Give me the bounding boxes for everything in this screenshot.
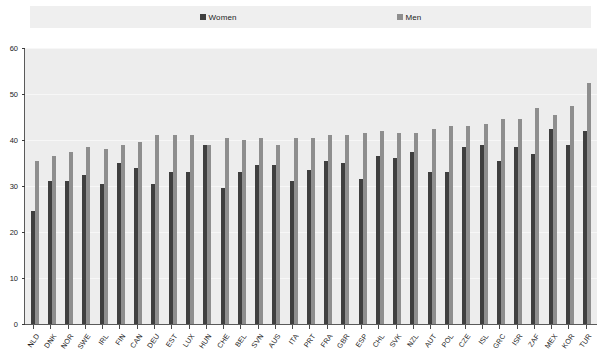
x-axis-tick xyxy=(42,325,59,329)
y-axis-tick-label: 30 xyxy=(10,182,18,191)
x-axis-tick-mark xyxy=(517,325,518,329)
bar-men[interactable] xyxy=(535,108,539,324)
x-axis-tick-mark xyxy=(413,325,414,329)
bar-group xyxy=(475,48,492,324)
x-axis-tick xyxy=(267,325,284,329)
y-axis-tick-label: 40 xyxy=(10,136,18,145)
x-axis-label-cell: GRC xyxy=(491,330,508,352)
bar-men[interactable] xyxy=(155,135,159,324)
x-axis-tick xyxy=(422,325,439,329)
bar-men[interactable] xyxy=(518,119,522,324)
bar-group xyxy=(78,48,95,324)
bar-chart: Women Men 0102030405060 NLDDNKNORSWEIRLF… xyxy=(0,0,603,352)
x-axis-label-cell: BEL xyxy=(232,330,249,352)
x-axis-tick-mark xyxy=(396,325,397,329)
legend-swatch-men-icon xyxy=(397,14,403,20)
bar-men[interactable] xyxy=(190,135,194,324)
x-axis-tick-mark xyxy=(378,325,379,329)
x-axis-label: CZE xyxy=(457,332,473,349)
x-axis-label-cell: EST xyxy=(163,330,180,352)
x-axis-tick-mark xyxy=(137,325,138,329)
x-axis-label: ESP xyxy=(353,332,369,349)
y-axis: 0102030405060 xyxy=(0,40,18,325)
bar-men[interactable] xyxy=(466,126,470,324)
bar-men[interactable] xyxy=(242,140,246,324)
legend-label-men: Men xyxy=(406,13,422,22)
y-axis-tick-mark xyxy=(22,278,25,279)
x-axis-tick xyxy=(284,325,301,329)
bar-men[interactable] xyxy=(484,124,488,324)
x-axis-label: ISR xyxy=(510,332,524,347)
x-axis-tick-mark xyxy=(102,325,103,329)
bar-men[interactable] xyxy=(449,126,453,324)
bar-men[interactable] xyxy=(52,156,56,324)
x-axis-label: KOR xyxy=(560,332,576,350)
bar-group xyxy=(406,48,423,324)
x-axis-tick xyxy=(94,325,111,329)
bar-men[interactable] xyxy=(121,145,125,324)
bar-men[interactable] xyxy=(104,149,108,324)
x-axis-label-cell: HUN xyxy=(198,330,215,352)
bar-group xyxy=(544,48,561,324)
x-axis-tick xyxy=(301,325,318,329)
bar-men[interactable] xyxy=(35,161,39,324)
bar-men[interactable] xyxy=(570,106,574,325)
x-axis-label-cell: AUT xyxy=(422,330,439,352)
bar-group xyxy=(285,48,302,324)
bar-men[interactable] xyxy=(259,138,263,324)
x-axis-label: GBR xyxy=(335,332,351,350)
bar-men[interactable] xyxy=(432,129,436,325)
bar-men[interactable] xyxy=(276,145,280,324)
bar-men[interactable] xyxy=(397,133,401,324)
bar-men[interactable] xyxy=(501,119,505,324)
x-axis-tick xyxy=(370,325,387,329)
bar-men[interactable] xyxy=(294,138,298,324)
x-axis-tick xyxy=(353,325,370,329)
bar-men[interactable] xyxy=(69,152,73,325)
bar-men[interactable] xyxy=(587,83,591,325)
bar-group xyxy=(95,48,112,324)
x-axis-tick-mark xyxy=(275,325,276,329)
x-axis-tick-mark xyxy=(344,325,345,329)
x-axis-tick xyxy=(543,325,560,329)
x-axis-tick-mark xyxy=(223,325,224,329)
x-axis-tick-mark xyxy=(534,325,535,329)
x-axis-tick-mark xyxy=(85,325,86,329)
bar-group xyxy=(26,48,43,324)
x-axis-label-cell: IRL xyxy=(94,330,111,352)
x-axis-label-cell: SVN xyxy=(249,330,266,352)
bar-group xyxy=(147,48,164,324)
x-axis-label: FIN xyxy=(113,332,127,347)
bar-men[interactable] xyxy=(328,135,332,324)
legend-item-women[interactable]: Women xyxy=(200,13,237,22)
x-axis-label-cell: NZL xyxy=(405,330,422,352)
bar-men[interactable] xyxy=(414,133,418,324)
bar-group xyxy=(423,48,440,324)
bar-men[interactable] xyxy=(311,138,315,324)
x-axis-label-cell: CAN xyxy=(129,330,146,352)
x-axis-tick-mark xyxy=(68,325,69,329)
bar-men[interactable] xyxy=(86,147,90,324)
bar-men[interactable] xyxy=(345,135,349,324)
y-axis-tick-label: 50 xyxy=(10,90,18,99)
bar-men[interactable] xyxy=(207,145,211,324)
x-axis-tick xyxy=(249,325,266,329)
bar-men[interactable] xyxy=(173,135,177,324)
bar-group xyxy=(337,48,354,324)
bar-group xyxy=(164,48,181,324)
bar-men[interactable] xyxy=(225,138,229,324)
x-axis-label: EST xyxy=(164,332,180,349)
x-axis-tick xyxy=(578,325,595,329)
bar-men[interactable] xyxy=(380,131,384,324)
bar-men[interactable] xyxy=(553,115,557,324)
x-axis-tick xyxy=(474,325,491,329)
bar-group xyxy=(61,48,78,324)
x-axis-label: NOR xyxy=(59,332,76,350)
x-axis-label: CAN xyxy=(128,332,144,350)
bar-men[interactable] xyxy=(138,142,142,324)
x-axis-tick-mark xyxy=(171,325,172,329)
bar-men[interactable] xyxy=(363,133,367,324)
x-axis-tick-mark xyxy=(361,325,362,329)
legend-item-men[interactable]: Men xyxy=(397,13,422,22)
y-axis-tick-mark xyxy=(22,48,25,49)
